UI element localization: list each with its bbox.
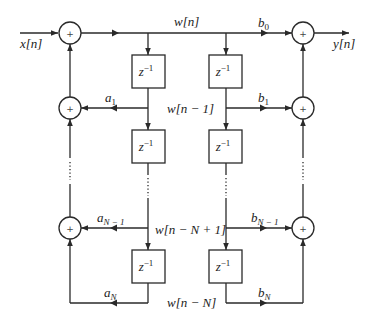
- delay-box-left-1: z−1: [132, 55, 165, 88]
- adder-rowN1-right: +: [292, 217, 314, 239]
- delay-box-right-2: z−1: [209, 130, 242, 163]
- top-signal-line: [81, 30, 292, 37]
- coef-b1: b1: [258, 90, 269, 107]
- coef-aN: aN: [104, 285, 118, 302]
- adder-rowN1-left: +: [59, 217, 81, 239]
- plus-icon: +: [299, 224, 307, 234]
- delay-box-left-N: z−1: [132, 250, 165, 283]
- adder-row1-left: +: [59, 97, 81, 119]
- state-label-wN: w[n − N]: [167, 295, 216, 310]
- delay-box-right-N: z−1: [209, 250, 242, 283]
- delay-box-right-1: z−1: [209, 55, 242, 88]
- coef-a1: a1: [105, 90, 116, 107]
- input-label: x[n]: [19, 36, 42, 51]
- plus-icon: +: [299, 29, 307, 39]
- coef-b0: b0: [258, 15, 270, 32]
- state-label-w1: w[n − 1]: [167, 101, 214, 116]
- state-label-wN1: w[n − N + 1]: [155, 222, 226, 237]
- delay-box-left-2: z−1: [132, 130, 165, 163]
- feedforward-branch-b1: [226, 105, 292, 112]
- coef-aN-1: aN − 1: [97, 210, 125, 227]
- coef-bN-1: bN − 1: [251, 210, 279, 227]
- plus-icon: +: [66, 224, 74, 234]
- state-label-w0: w[n]: [174, 14, 199, 29]
- feedback-branch-aN: [70, 300, 148, 307]
- plus-icon: +: [66, 104, 74, 114]
- plus-icon: +: [66, 29, 74, 39]
- adder-top-right: +: [292, 22, 314, 44]
- output-label: y[n]: [331, 36, 355, 51]
- coef-bN: bN: [258, 285, 272, 302]
- plus-icon: +: [299, 104, 307, 114]
- adder-row1-right: +: [292, 97, 314, 119]
- mid-arrow-icon: [112, 30, 119, 37]
- iir-direct-form-ii-diagram: + + + + + + z−1 z−1 z−1 z−1 z−1: [0, 0, 369, 320]
- adder-top-left: +: [59, 22, 81, 44]
